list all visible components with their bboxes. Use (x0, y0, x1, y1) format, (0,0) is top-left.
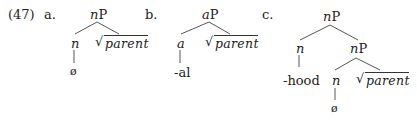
root-phrase-marker: P (331, 9, 340, 24)
root-phrase-marker: P (210, 7, 219, 22)
tree-c-root-node: nP (323, 10, 340, 23)
tree-c-root-parent: parent (366, 75, 410, 88)
tree-a-root-node: nP (90, 8, 107, 21)
tree-b-label: b. (145, 8, 157, 21)
root-phrase-marker: P (98, 7, 107, 22)
tree-c-label: c. (262, 8, 273, 21)
tree-a-null-exponent: ø (70, 66, 77, 77)
tree-b-sqrt-symbol: √ (205, 35, 213, 48)
tree-c-sqrt-symbol: √ (356, 72, 364, 85)
inner-phrase-marker: P (358, 41, 367, 56)
tree-a-label: a. (44, 8, 56, 21)
tree-c-head-node: n (296, 42, 304, 55)
tree-c-hood-exponent: -hood (283, 74, 320, 87)
tree-a-root-parent: parent (105, 38, 149, 51)
tree-a-sqrt-symbol: √ (95, 35, 103, 48)
tree-c-inner-head-node: n (332, 74, 340, 87)
tree-b-al-exponent: -al (174, 66, 190, 79)
example-number: (47) (8, 8, 35, 21)
tree-c-null-exponent: ø (331, 103, 338, 114)
tree-c-inner-np-node: nP (350, 42, 367, 55)
tree-b-head-node: a (177, 37, 185, 50)
tree-b-root-parent: parent (215, 38, 259, 51)
tree-b-root-node: aP (202, 8, 219, 21)
tree-a-head-node: n (71, 37, 79, 50)
root-category: a (202, 7, 210, 22)
